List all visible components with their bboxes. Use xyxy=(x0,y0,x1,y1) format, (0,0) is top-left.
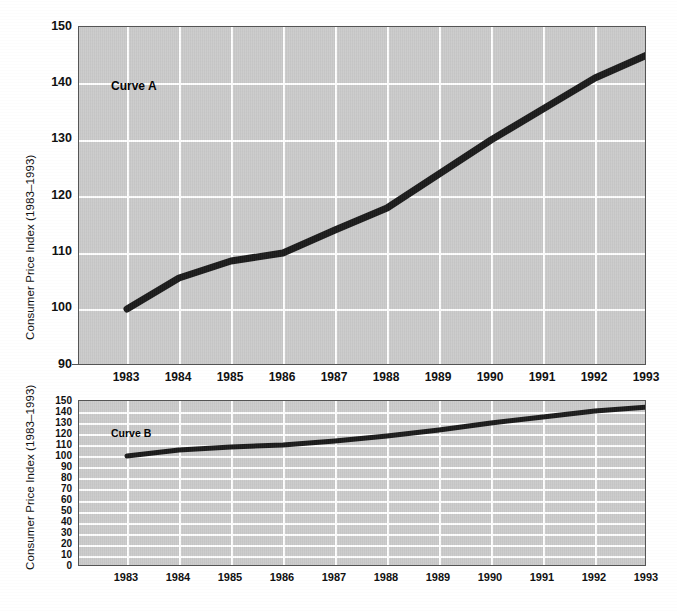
x-tick-top-1988: 1988 xyxy=(358,371,414,383)
series-line-curve-b xyxy=(79,401,646,566)
y-tick-bottom-150: 150 xyxy=(40,396,72,406)
chart-panel-curve-b: Consumer Price Index (1983–1993) 150 140… xyxy=(0,395,677,611)
y-axis-title-top: Consumer Price Index (1983–1993) xyxy=(24,155,36,340)
y-tick-bottom-0: 0 xyxy=(40,561,72,571)
plot-area-curve-a: Curve A xyxy=(78,26,646,365)
y-tick-bottom-20: 20 xyxy=(40,539,72,549)
y-tick-bottom-40: 40 xyxy=(40,517,72,527)
y-tick-bottom-10: 10 xyxy=(40,550,72,560)
y-tick-bottom-120: 120 xyxy=(40,429,72,439)
x-tick-bottom-1988: 1988 xyxy=(359,572,413,583)
y-tick-top-120: 120 xyxy=(36,189,72,202)
y-tick-bottom-130: 130 xyxy=(40,418,72,428)
y-tick-top-90: 90 xyxy=(36,358,72,371)
x-tick-bottom-1987: 1987 xyxy=(307,572,361,583)
x-tick-top-1991: 1991 xyxy=(514,371,570,383)
x-tick-top-1983: 1983 xyxy=(98,371,154,383)
y-tick-top-110: 110 xyxy=(36,245,72,258)
plot-area-curve-b: Curve B xyxy=(78,400,646,566)
y-tick-bottom-30: 30 xyxy=(40,528,72,538)
x-tick-top-1986: 1986 xyxy=(254,371,310,383)
y-axis-title-bottom: Consumer Price Index (1983–1993) xyxy=(24,385,36,570)
y-tick-top-130: 130 xyxy=(36,132,72,145)
y-tick-bottom-140: 140 xyxy=(40,407,72,417)
y-tick-top-140: 140 xyxy=(36,76,72,89)
x-tick-bottom-1984: 1984 xyxy=(151,572,205,583)
x-tick-bottom-1991: 1991 xyxy=(515,572,569,583)
y-tick-top-100: 100 xyxy=(36,301,72,314)
y-tick-bottom-80: 80 xyxy=(40,473,72,483)
x-tick-top-1993: 1993 xyxy=(618,371,674,383)
x-tick-bottom-1985: 1985 xyxy=(203,572,257,583)
y-tick-bottom-50: 50 xyxy=(40,506,72,516)
x-tick-bottom-1990: 1990 xyxy=(463,572,517,583)
y-tick-bottom-60: 60 xyxy=(40,495,72,505)
x-tick-bottom-1993: 1993 xyxy=(619,572,673,583)
x-tick-top-1990: 1990 xyxy=(462,371,518,383)
x-tick-top-1989: 1989 xyxy=(410,371,466,383)
x-tick-bottom-1989: 1989 xyxy=(411,572,465,583)
x-tick-top-1984: 1984 xyxy=(150,371,206,383)
x-tick-top-1987: 1987 xyxy=(306,371,362,383)
y-tick-bottom-110: 110 xyxy=(40,440,72,450)
y-tick-bottom-70: 70 xyxy=(40,484,72,494)
x-tick-bottom-1992: 1992 xyxy=(567,572,621,583)
y-tick-bottom-90: 90 xyxy=(40,462,72,472)
x-tick-top-1985: 1985 xyxy=(202,371,258,383)
y-tick-bottom-100: 100 xyxy=(40,451,72,461)
x-tick-bottom-1986: 1986 xyxy=(255,572,309,583)
series-line-curve-a xyxy=(79,27,646,365)
chart-panel-curve-a: Consumer Price Index (1983–1993) 150 140… xyxy=(0,0,677,392)
curve-b-annotation: Curve B xyxy=(111,427,151,439)
x-tick-top-1992: 1992 xyxy=(566,371,622,383)
y-tick-top-150: 150 xyxy=(36,20,72,33)
figure-canvas: Consumer Price Index (1983–1993) 150 140… xyxy=(0,0,677,611)
curve-a-annotation: Curve A xyxy=(111,79,157,93)
x-tick-bottom-1983: 1983 xyxy=(99,572,153,583)
